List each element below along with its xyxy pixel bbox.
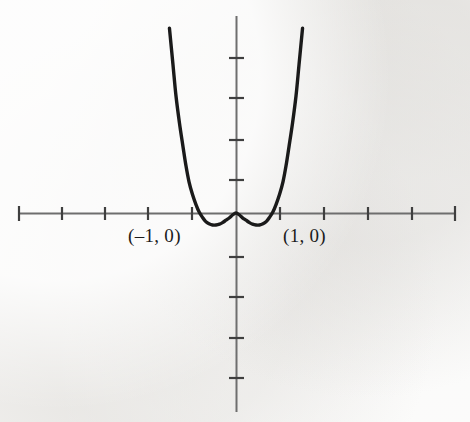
root-label-negative-one: (–1, 0) [128, 226, 181, 245]
coordinate-plot [0, 0, 470, 422]
graph-figure: (–1, 0) (1, 0) [0, 0, 470, 422]
root-label-positive-one: (1, 0) [283, 226, 326, 245]
